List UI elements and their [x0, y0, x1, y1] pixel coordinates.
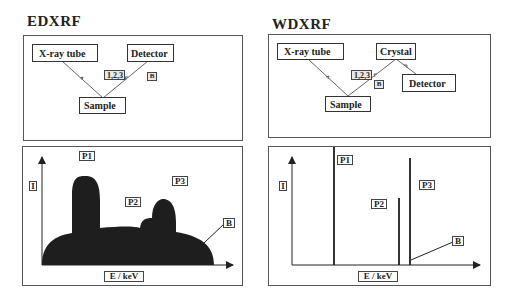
edxrf-peak-p2-label: P2	[125, 197, 141, 207]
edxrf-detector-box: Detector	[127, 44, 174, 62]
wdxrf-sample-box: Sample	[325, 96, 371, 112]
wdxrf-peak-p3-label: P3	[419, 180, 435, 190]
wdxrf-peak-p2-label: P2	[371, 199, 387, 209]
wdxrf-xray-tube-box: X-ray tube	[277, 43, 344, 60]
wdxrf-schematic-b-label: B	[374, 80, 384, 89]
edxrf-lines-label: 1,2,3	[104, 70, 125, 80]
edxrf-background-label: B	[223, 218, 235, 228]
wdxrf-lines-label: 1,2,3	[351, 70, 372, 80]
wdxrf-crystal-box: Crystal	[376, 43, 416, 60]
wdxrf-background-leader	[411, 242, 453, 260]
wdxrf-y-axis-label: I	[279, 181, 287, 191]
wdxrf-x-axis-label: E / keV	[358, 271, 398, 282]
wdxrf-detector-box: Detector	[402, 74, 456, 92]
edxrf-y-axis-label: I	[29, 181, 37, 191]
wdxrf-background-label: B	[452, 236, 464, 246]
wdxrf-peak-p1-label: P1	[337, 155, 353, 165]
edxrf-x-axis-label: E / keV	[104, 271, 144, 282]
edxrf-peak-p1-label: P1	[79, 151, 95, 161]
edxrf-peak-p3-label: P3	[172, 176, 188, 186]
edxrf-sample-box: Sample	[79, 97, 126, 114]
wdxrf-axes	[292, 157, 480, 265]
edxrf-spectrum-curve	[42, 176, 214, 265]
edxrf-xray-tube-box: X-ray tube	[32, 44, 98, 62]
edxrf-background-leader	[204, 224, 224, 243]
edxrf-schematic-b-label: B	[147, 72, 157, 81]
